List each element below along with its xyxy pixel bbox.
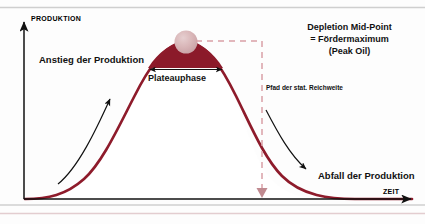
decline-annotation-label: Abfall der Produktion (318, 170, 415, 182)
rise-annotation-label: Anstieg der Produktion (39, 54, 144, 66)
y-axis-label: PRODUKTION (31, 15, 81, 24)
peak-callout: Depletion Mid-Point = Fördermaximum (Pea… (287, 21, 412, 57)
static-range-path-label: Pfad der stat. Reichweite (266, 84, 343, 92)
peak-callout-line-3: (Peak Oil) (287, 45, 412, 57)
plateau-annotation-label: Plateauphase (148, 73, 206, 84)
x-axis-label: ZEIT (383, 188, 399, 197)
peak-sphere-marker (175, 31, 198, 54)
decline-arrow (266, 110, 306, 169)
peak-callout-line-2: = Fördermaximum (287, 33, 412, 45)
peak-oil-diagram: PRODUKTION ZEIT Anstieg der Produktion P… (0, 0, 425, 224)
peak-callout-line-1: Depletion Mid-Point (287, 21, 412, 33)
